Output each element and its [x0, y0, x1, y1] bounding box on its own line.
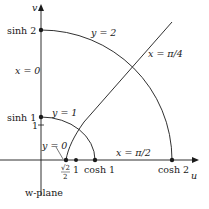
v-axis-arrow-icon	[38, 4, 44, 11]
y2-label: y = 2	[90, 27, 116, 38]
u-axis-label: u	[191, 170, 197, 181]
point-sinh1	[39, 115, 43, 119]
x0-label: x = 0	[15, 65, 40, 76]
point-cosh2	[170, 158, 174, 162]
sinh2-label: sinh 2	[7, 25, 36, 36]
point-sqrt2-over-2	[64, 158, 68, 162]
y1-label: y = 1	[51, 107, 77, 118]
v-axis-label: v	[32, 2, 38, 13]
ellipse-y1	[41, 117, 95, 160]
cosh1-label: cosh 1	[84, 164, 115, 175]
cosh2-label: cosh 2	[158, 164, 189, 175]
sqrt2-denominator: 2	[63, 173, 67, 181]
u-axis-arrow-icon	[192, 157, 199, 163]
point-sinh2	[39, 28, 43, 32]
y0-label: y = 0	[41, 140, 67, 151]
sqrt2-numerator: √2	[61, 164, 70, 172]
hyperbola-x-pi4	[66, 22, 172, 160]
x-pi4-label: x = π/4	[148, 48, 183, 59]
v-tick-1-label: 1	[32, 120, 38, 131]
x-pi2-label: x = π/2	[116, 147, 151, 158]
point-cosh1	[93, 158, 97, 162]
plane-label: w-plane	[25, 187, 63, 198]
point-1	[74, 158, 78, 162]
w-plane-diagram: v u sinh 2 sinh 1 1 y = 2 x = 0 x = π/4 …	[0, 0, 209, 209]
u-tick-1-label: 1	[73, 164, 79, 175]
